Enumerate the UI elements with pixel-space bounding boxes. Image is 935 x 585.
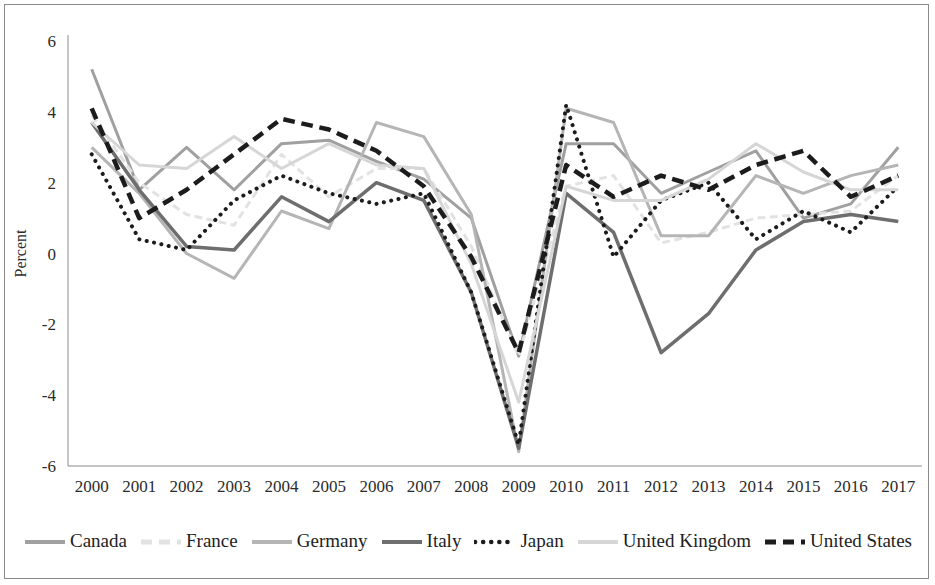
x-tick-label: 2015 [786, 477, 820, 496]
y-tick-label: -2 [42, 315, 56, 334]
x-tick-label: 2005 [312, 477, 346, 496]
legend-label: France [186, 530, 238, 552]
x-tick-label: 2013 [692, 477, 726, 496]
x-tick-label: 2001 [122, 477, 156, 496]
line-chart: 6420-2-4-6Percent20002001200220032004200… [0, 0, 935, 585]
x-tick-label: 2003 [217, 477, 251, 496]
legend-swatch-dashed [764, 534, 806, 548]
legend-swatch-solid [251, 534, 293, 548]
chart-svg: 6420-2-4-6Percent20002001200220032004200… [0, 0, 935, 585]
legend-item-united-states[interactable]: United States [764, 530, 912, 552]
chart-legend: CanadaFranceGermanyItalyJapanUnited King… [18, 524, 918, 558]
x-tick-label: 2012 [644, 477, 678, 496]
legend-label: United States [810, 530, 912, 552]
y-tick-label: 0 [48, 245, 57, 264]
legend-item-united-kingdom[interactable]: United Kingdom [577, 530, 751, 552]
x-tick-label: 2009 [502, 477, 536, 496]
y-tick-label: 4 [48, 103, 57, 122]
y-tick-label: -6 [42, 457, 56, 476]
series-line-united-kingdom [92, 123, 899, 403]
legend-swatch-solid [381, 534, 423, 548]
y-tick-label: -4 [42, 386, 57, 405]
x-tick-label: 2002 [170, 477, 204, 496]
y-tick-label: 6 [48, 32, 57, 51]
x-tick-label: 2007 [407, 477, 442, 496]
x-tick-label: 2006 [359, 477, 393, 496]
x-tick-label: 2011 [597, 477, 630, 496]
legend-label: Italy [427, 530, 462, 552]
legend-item-italy[interactable]: Italy [381, 530, 462, 552]
legend-label: Japan [520, 530, 563, 552]
legend-item-japan[interactable]: Japan [474, 530, 563, 552]
legend-label: Canada [70, 530, 127, 552]
legend-swatch-solid [577, 534, 619, 548]
legend-item-france[interactable]: France [140, 530, 238, 552]
y-tick-label: 2 [48, 174, 57, 193]
legend-swatch-dotted [474, 534, 516, 548]
legend-item-germany[interactable]: Germany [251, 530, 368, 552]
x-tick-label: 2004 [265, 477, 300, 496]
x-tick-label: 2016 [834, 477, 868, 496]
series-line-canada [92, 69, 899, 356]
legend-swatch-dashed [140, 534, 182, 548]
x-tick-label: 2017 [881, 477, 916, 496]
legend-label: United Kingdom [623, 530, 751, 552]
series-line-united-states [92, 108, 899, 352]
x-tick-label: 2010 [549, 477, 583, 496]
legend-label: Germany [297, 530, 368, 552]
x-tick-label: 2014 [739, 477, 774, 496]
x-tick-label: 2000 [75, 477, 109, 496]
x-tick-label: 2008 [454, 477, 488, 496]
y-axis-title: Percent [12, 229, 29, 278]
legend-swatch-solid [24, 534, 66, 548]
legend-item-canada[interactable]: Canada [24, 530, 127, 552]
